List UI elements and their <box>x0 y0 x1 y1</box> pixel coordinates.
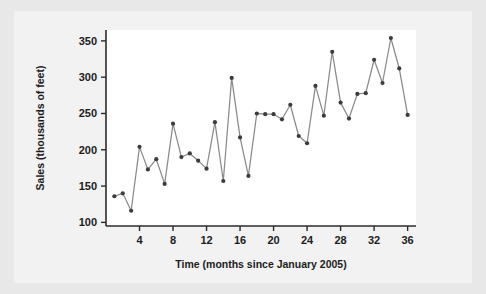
x-tick-label: 4 <box>136 234 143 246</box>
data-point <box>196 159 200 163</box>
y-tick-label: 300 <box>79 71 97 83</box>
data-point <box>364 91 368 95</box>
y-tick-group: 100150200250300350 <box>79 35 106 228</box>
data-point <box>313 84 317 88</box>
data-point <box>338 100 342 104</box>
sales-line-chart: 100150200250300350 4812162024283236 Sale… <box>14 11 472 283</box>
data-point <box>146 167 150 171</box>
x-axis-title: Time (months since January 2005) <box>175 258 346 270</box>
data-point <box>112 194 116 198</box>
x-tick-group: 4812162024283236 <box>136 226 413 246</box>
data-point <box>154 157 158 161</box>
data-point <box>137 145 141 149</box>
x-tick-label: 24 <box>301 234 314 246</box>
data-point <box>204 167 208 171</box>
data-point <box>271 112 275 116</box>
data-point <box>406 113 410 117</box>
y-axis-title: Sales (thousands of feet) <box>34 66 46 191</box>
data-point <box>397 66 401 70</box>
data-point <box>230 76 234 80</box>
plot-area-background <box>106 30 416 226</box>
data-point <box>305 141 309 145</box>
data-point <box>179 155 183 159</box>
y-tick-label: 200 <box>79 144 97 156</box>
data-point <box>163 182 167 186</box>
y-tick-label: 100 <box>79 216 97 228</box>
data-point <box>263 112 267 116</box>
x-tick-label: 8 <box>170 234 176 246</box>
y-tick-label: 150 <box>79 180 97 192</box>
x-tick-label: 32 <box>368 234 380 246</box>
x-tick-label: 36 <box>401 234 413 246</box>
data-point <box>255 111 259 115</box>
data-point <box>280 117 284 121</box>
data-point <box>221 179 225 183</box>
x-tick-label: 16 <box>234 234 246 246</box>
figure-panel: 100150200250300350 4812162024283236 Sale… <box>14 11 472 283</box>
data-point <box>297 134 301 138</box>
data-point <box>380 81 384 85</box>
data-point <box>121 191 125 195</box>
data-point <box>347 116 351 120</box>
x-tick-label: 20 <box>267 234 279 246</box>
data-point <box>213 120 217 124</box>
figure-container: 100150200250300350 4812162024283236 Sale… <box>0 0 486 294</box>
data-point <box>372 58 376 62</box>
data-point <box>188 151 192 155</box>
data-point <box>389 36 393 40</box>
data-point <box>129 209 133 213</box>
data-point <box>322 114 326 118</box>
data-point <box>238 135 242 139</box>
x-tick-label: 12 <box>200 234 212 246</box>
x-tick-label: 28 <box>334 234 346 246</box>
data-point <box>288 103 292 107</box>
data-point <box>355 92 359 96</box>
data-point <box>246 174 250 178</box>
data-point <box>330 50 334 54</box>
y-tick-label: 250 <box>79 107 97 119</box>
y-tick-label: 350 <box>79 35 97 47</box>
data-point <box>171 122 175 126</box>
